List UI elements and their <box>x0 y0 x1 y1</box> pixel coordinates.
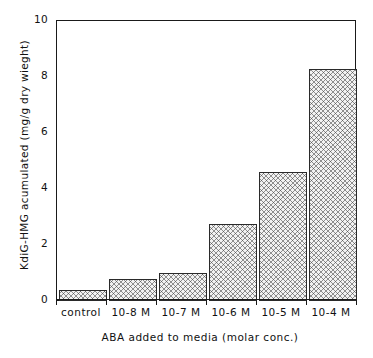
y-axis-tick-label: 0 <box>28 294 48 305</box>
x-axis-tick-label: 10-5 M <box>256 306 306 319</box>
y-axis-tick-label: 2 <box>28 238 48 249</box>
y-axis-tick-label: 8 <box>28 70 48 81</box>
y-axis-tick-label: 10 <box>28 14 48 25</box>
chart-figure: KdiG-HMG acumulated (mg/g dry wieght) 02… <box>0 0 373 358</box>
x-axis-tick-label: 10-7 M <box>156 306 206 319</box>
x-axis-tick <box>106 300 107 305</box>
x-axis-tick <box>356 300 357 305</box>
x-axis-tick-label: 10-4 M <box>306 306 356 319</box>
bar <box>159 273 207 301</box>
x-axis-tick <box>206 300 207 305</box>
bars-container <box>57 21 355 300</box>
x-axis-tick-label: 10-6 M <box>206 306 256 319</box>
y-axis-title: KdiG-HMG acumulated (mg/g dry wieght) <box>14 10 34 300</box>
plot-area <box>56 20 356 300</box>
x-axis-tick <box>306 300 307 305</box>
bar <box>109 279 157 301</box>
x-axis-title: ABA added to media (molar conc.) <box>40 331 360 343</box>
bar <box>209 224 257 301</box>
x-axis-tick <box>56 300 57 305</box>
x-axis-tick-label: control <box>56 306 106 319</box>
bar <box>259 172 307 301</box>
x-axis-tick <box>256 300 257 305</box>
x-axis-tick <box>156 300 157 305</box>
x-axis-tick-label: 10-8 M <box>106 306 156 319</box>
y-axis-tick-label: 6 <box>28 126 48 137</box>
bar <box>309 69 357 301</box>
y-axis-tick-label: 4 <box>28 182 48 193</box>
